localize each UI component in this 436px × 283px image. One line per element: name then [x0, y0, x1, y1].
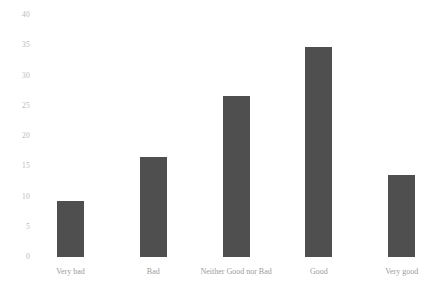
- x-axis-category-label: Very bad: [56, 268, 85, 276]
- y-axis-tick-label: 10: [0, 193, 30, 201]
- y-axis-tick-label: 40: [0, 11, 30, 19]
- y-axis-tick-label: 30: [0, 72, 30, 80]
- bar-chart: 0510152025303540 Very badBadNeither Good…: [0, 0, 436, 283]
- bar: [388, 175, 415, 257]
- x-axis-category-label: Neither Good nor Bad: [200, 268, 271, 276]
- y-axis-tick-label: 0: [0, 253, 30, 261]
- y-axis-tick-label: 35: [0, 42, 30, 50]
- y-axis-tick-label: 20: [0, 132, 30, 140]
- y-axis-tick-label: 25: [0, 102, 30, 110]
- bar: [305, 47, 332, 257]
- x-axis-category-label: Very good: [385, 268, 418, 276]
- y-axis-tick-label: 5: [0, 223, 30, 231]
- bar: [223, 96, 250, 257]
- x-axis-category-label: Bad: [147, 268, 160, 276]
- plot-area: 0510152025303540 Very badBadNeither Good…: [0, 0, 436, 283]
- bar: [57, 201, 84, 257]
- bar: [140, 157, 167, 257]
- y-axis-tick-label: 15: [0, 163, 30, 171]
- x-axis-category-label: Good: [310, 268, 328, 276]
